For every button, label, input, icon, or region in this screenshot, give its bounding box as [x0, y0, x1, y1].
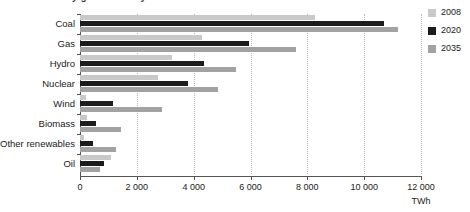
bar-2035: [80, 167, 100, 172]
x-axis-tick: [137, 176, 138, 180]
bar-2035: [80, 67, 236, 72]
bar-2020: [80, 61, 204, 66]
x-axis-tick: [307, 176, 308, 180]
chart-title: World electricity generation by source: [0, 0, 420, 3]
x-axis-tick-label: 0: [77, 182, 82, 192]
chart-legend: 200820202035: [428, 8, 461, 62]
bar-2020: [80, 101, 113, 106]
category-label: Hydro: [50, 59, 75, 69]
legend-item-2008[interactable]: 2008: [428, 8, 461, 17]
gridline: [421, 14, 422, 174]
category-row: Hydro: [80, 54, 421, 74]
legend-item-2035[interactable]: 2035: [428, 44, 461, 53]
bar-2035: [80, 27, 398, 32]
bar-2008: [80, 55, 172, 60]
legend-label: 2020: [441, 26, 461, 35]
bar-2008: [80, 115, 87, 120]
bar-2020: [80, 81, 188, 86]
bar-2008: [80, 95, 86, 100]
bar-2008: [80, 155, 111, 160]
category-row: Oil: [80, 154, 421, 174]
category-label: Gas: [58, 39, 75, 49]
x-axis-tick-label: 6 000: [239, 182, 262, 192]
x-axis-tick: [364, 176, 365, 180]
legend-label: 2035: [441, 44, 461, 53]
x-axis-tick-label: 4 000: [182, 182, 205, 192]
category-label: Nuclear: [42, 79, 75, 89]
legend-swatch-icon: [428, 27, 436, 35]
category-label: Coal: [55, 19, 75, 29]
x-axis-tick: [194, 176, 195, 180]
legend-item-2020[interactable]: 2020: [428, 26, 461, 35]
category-label: Biomass: [39, 119, 75, 129]
bar-2008: [80, 35, 202, 40]
category-row: Nuclear: [80, 74, 421, 94]
category-row: Biomass: [80, 114, 421, 134]
legend-swatch-icon: [428, 45, 436, 53]
x-axis-tick: [421, 176, 422, 180]
bar-2008: [80, 135, 84, 140]
category-row: Gas: [80, 34, 421, 54]
x-axis-tick-label: 12 000: [407, 182, 435, 192]
bar-2008: [80, 75, 158, 80]
bar-2020: [80, 121, 96, 126]
x-axis-tick-label: 2 000: [126, 182, 149, 192]
bar-2035: [80, 147, 116, 152]
bar-2035: [80, 87, 218, 92]
category-label: Oil: [63, 159, 75, 169]
bar-2020: [80, 21, 384, 26]
x-axis-tick: [251, 176, 252, 180]
legend-label: 2008: [441, 8, 461, 17]
bar-2020: [80, 141, 93, 146]
x-axis-tick-label: 8 000: [296, 182, 319, 192]
bar-2020: [80, 161, 104, 166]
bar-2020: [80, 41, 249, 46]
bar-2035: [80, 107, 162, 112]
category-label: Other renewables: [0, 139, 75, 149]
x-axis-unit-label: TWh: [412, 196, 431, 206]
category-row: Coal: [80, 14, 421, 34]
category-label: Wind: [53, 99, 75, 109]
plot-area: CoalGasHydroNuclearWindBiomassOther rene…: [80, 14, 421, 174]
x-axis-tick: [80, 176, 81, 180]
category-row: Other renewables: [80, 134, 421, 154]
legend-swatch-icon: [428, 9, 436, 17]
bar-chart: World electricity generation by source C…: [0, 0, 470, 212]
bar-2035: [80, 127, 121, 132]
x-axis-tick-label: 10 000: [350, 182, 378, 192]
bar-2008: [80, 15, 315, 20]
bar-2035: [80, 47, 296, 52]
category-row: Wind: [80, 94, 421, 114]
